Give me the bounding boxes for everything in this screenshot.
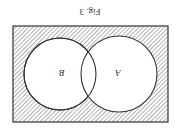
- set-a-label: A: [115, 68, 122, 78]
- set-b-label: B: [59, 68, 65, 78]
- venn-diagram: B A Fig. 3: [0, 0, 177, 136]
- figure-caption: Fig. 3: [79, 7, 101, 17]
